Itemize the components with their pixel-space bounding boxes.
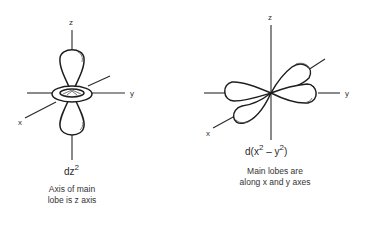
dz2-x-label: x bbox=[18, 118, 22, 127]
dz2-caption: Axis of main lobe is z axis bbox=[36, 184, 108, 206]
dxy-orbital-prefix: d(x bbox=[245, 146, 259, 157]
dz2-caption-line-1: Axis of main bbox=[36, 184, 108, 195]
dz2-caption-line-2: lobe is z axis bbox=[36, 195, 108, 206]
dxy-caption-line-1: Main lobes are bbox=[230, 166, 320, 177]
dxy-orbital-sup1: 2 bbox=[259, 143, 263, 152]
dz2-orbital-superscript: 2 bbox=[75, 163, 79, 172]
dxy-orbital-sup2: 2 bbox=[279, 143, 283, 152]
dx2-y2-orbital-label: d(x2 – y2) bbox=[245, 144, 287, 157]
dxy-orbital-mid: – y bbox=[263, 146, 279, 157]
orbital-diagram: z y x z y x bbox=[0, 0, 386, 248]
dxy-orbital-suffix: ) bbox=[284, 146, 287, 157]
dz2-z-label: z bbox=[69, 18, 73, 27]
dz2-x-axis-back bbox=[88, 76, 110, 86]
dz2-x-axis-front bbox=[25, 102, 56, 118]
dx2-y2-caption: Main lobes are along x and y axes bbox=[230, 166, 320, 188]
dxy-z-label: z bbox=[268, 13, 272, 22]
dxy-x-axis-back bbox=[308, 59, 325, 70]
dz2-orbital-prefix: dz bbox=[64, 166, 75, 177]
dxy-x-label: x bbox=[206, 129, 210, 138]
dz2-orbital-label: dz2 bbox=[64, 164, 79, 177]
dxy-x-axis-front bbox=[213, 116, 235, 128]
dxy-caption-line-2: along x and y axes bbox=[230, 177, 320, 188]
dx2-y2-figure: z y x bbox=[204, 13, 349, 140]
dz2-y-label: y bbox=[130, 89, 134, 98]
dxy-y-label: y bbox=[345, 89, 349, 98]
dz2-figure: z y x bbox=[18, 18, 134, 160]
